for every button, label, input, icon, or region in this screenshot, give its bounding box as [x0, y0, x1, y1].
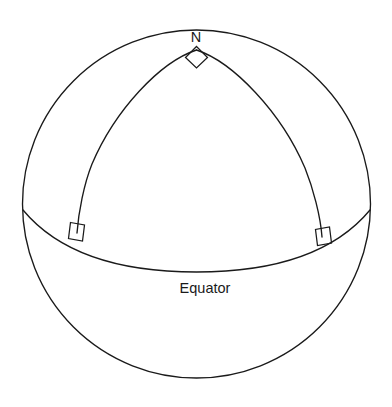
sphere-outline-circle: [23, 30, 371, 378]
sphere-diagram: N Equator: [0, 0, 392, 407]
meridian-right-arc: [197, 50, 323, 237]
equator-arc: [23, 210, 370, 272]
meridian-left-arc: [77, 50, 197, 233]
equator-label: Equator: [180, 280, 231, 296]
right-foot-right-angle-icon: [316, 227, 332, 246]
north-pole-label: N: [191, 29, 201, 45]
sphere-diagram-svg: N Equator: [0, 0, 392, 407]
